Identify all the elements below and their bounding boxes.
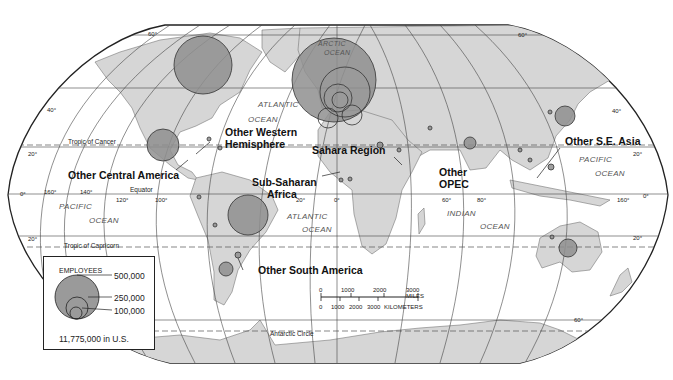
scale-km-0: 0 [319,304,322,310]
lat-0-w: 0° [20,191,26,197]
lon-60e: 60° [442,197,451,203]
lon-100w: 100° [155,197,167,203]
lat-20s-e: 20° [633,235,642,241]
lat-20s-w: 20° [28,236,37,242]
bubble-small [213,223,217,227]
label-sub-saharan-africa-2: Africa [267,189,297,200]
lat-40n-e: 40° [612,108,621,114]
atlantic-south-label: ATLANTIC [287,213,327,221]
bubble-brazil [228,195,268,235]
label-other-south-america: Other South America [258,265,363,276]
bubble-small [218,146,222,150]
bubble-small [235,252,241,258]
scale-km-1000: 1000 [331,304,344,310]
scale-mi-2000: 2000 [373,287,386,293]
pacific-east-label: PACIFIC [59,203,92,211]
pacific-east-label-2: OCEAN [89,217,119,225]
lat-20n-w: 20° [28,151,37,157]
bubble-small [548,110,552,114]
bubble-small [348,177,352,181]
legend-us-note: 11,775,000 in U.S. [59,334,129,344]
scale-mi-0: 0 [319,287,322,293]
label-other-central-america: Other Central America [68,170,179,181]
lon-120w: 120° [116,197,128,203]
bubble-canada [174,36,232,94]
label-sub-saharan-africa: Sub-Saharan [252,177,317,188]
atlantic-north-label: ATLANTIC [258,101,298,109]
scale-km-2000: 2000 [349,304,362,310]
legend-250000: 250,000 [114,293,145,303]
atlantic-south-label-2: OCEAN [302,226,332,234]
lat-40n-w: 40° [47,107,56,113]
bubble-argentina [219,262,233,276]
lat-60s-e: 60° [574,317,583,323]
lat-60n-e: 60° [518,32,527,38]
lat-20n-e: 20° [633,151,642,157]
bubble-small [548,164,554,170]
pacific-west-label-2: OCEAN [595,170,625,178]
bubble-australia [559,239,577,257]
scale-mi-1000: 1000 [341,287,354,293]
indian-ocean-label: INDIAN [447,210,476,218]
arctic-ocean-label-2: OCEAN [324,49,350,56]
legend-100000: 100,000 [114,306,145,316]
scale-km-unit: KILOMETERS [384,304,423,310]
bubble-india [464,137,476,149]
legend-500000: 500,000 [114,271,145,281]
pacific-west-label: PACIFIC [579,156,612,164]
bubble-small [528,158,532,162]
lon-80e: 80° [477,197,486,203]
bubble-small [428,126,432,130]
lon-160w: 160° [44,189,56,195]
scale-mi-3000: 3000 MILES [406,287,428,299]
label-other-se-asia: Other S.E. Asia [565,136,640,147]
indian-ocean-label-2: OCEAN [480,223,510,231]
equator-label: Equator [130,187,153,194]
bubble-mexico [147,129,179,161]
legend-box: EMPLOYEES 500,000 250,000 100,000 11,775… [43,256,155,350]
lat-60n-w: 60° [148,31,157,37]
lat-0-e: 0° [643,193,649,199]
lon-160e: 160° [617,197,629,203]
lon-0: 0° [334,197,340,203]
label-sahara-region: Sahara Region [312,145,386,156]
lon-140w: 140° [80,189,92,195]
atlantic-north-label-2: OCEAN [248,116,278,124]
bubble-small [339,178,343,182]
bubble-small [397,148,401,152]
antarctic-circle-label: Antarctic Circle [270,331,314,338]
label-other-opec: Other [439,167,467,178]
bubble-japan [555,106,575,126]
lon-20w: 20° [296,197,305,203]
arctic-ocean-label: ARCTIC [318,40,346,47]
bubble-small [197,195,201,199]
scale-bar: 0 1000 2000 3000 MILES 0 1000 2000 3000 … [318,287,428,317]
bubble-small [550,235,554,239]
label-other-western-hemisphere-2: Hemisphere [225,139,285,150]
scale-km-3000: 3000 [367,304,380,310]
label-other-western-hemisphere: Other Western [225,127,297,138]
bubble-small [207,137,211,141]
tropic-of-cancer-label: Tropic of Cancer [68,139,116,146]
bubble-small [518,148,522,152]
label-other-opec-2: OPEC [439,179,469,190]
tropic-of-capricorn-label: Tropic of Capricorn [64,243,119,250]
